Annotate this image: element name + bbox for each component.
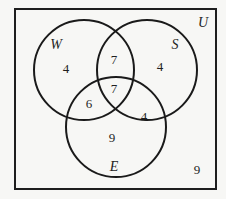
region-w-and-s: 7 <box>111 53 118 66</box>
region-w-and-e: 6 <box>86 97 93 110</box>
region-w-only: 4 <box>63 62 70 75</box>
set-w-circle <box>34 20 134 120</box>
region-w-s-e: 7 <box>111 82 118 95</box>
region-e-only: 9 <box>109 131 116 144</box>
region-s-only: 4 <box>157 60 164 73</box>
set-s-label: S <box>172 38 179 51</box>
region-outside: 9 <box>194 163 201 176</box>
universe-label: U <box>198 16 208 29</box>
region-s-and-e: 4 <box>141 110 148 123</box>
set-w-label: W <box>50 38 62 51</box>
set-e-label: E <box>110 160 119 173</box>
set-s-circle <box>97 20 197 120</box>
